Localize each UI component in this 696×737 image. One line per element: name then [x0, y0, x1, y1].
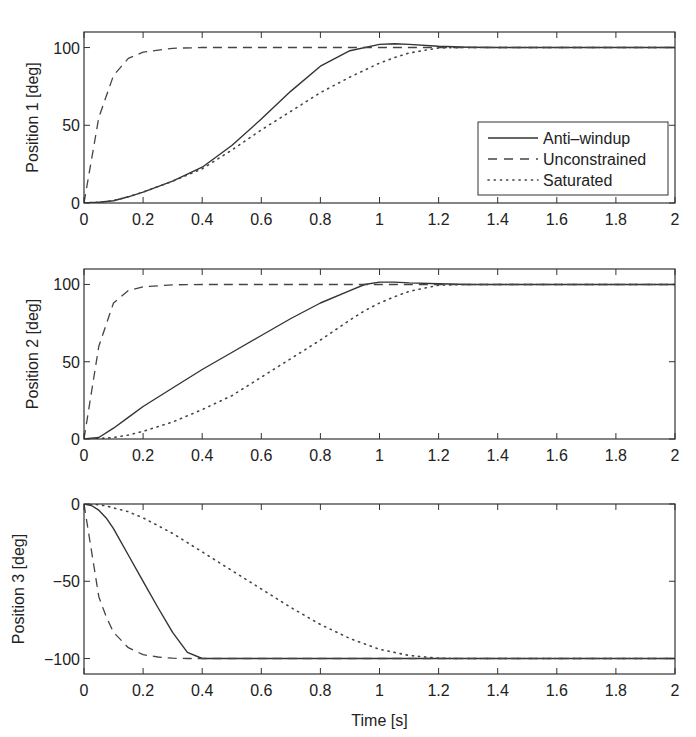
- x-tick-label: 1.8: [605, 211, 627, 228]
- x-axis-label: Time [s]: [351, 712, 407, 729]
- subplot-3: 00.20.40.60.811.21.41.61.82−100−500Posit…: [10, 496, 680, 729]
- x-tick-label: 1.2: [427, 682, 449, 699]
- x-tick-label: 0.4: [191, 447, 213, 464]
- y-tick-label: −50: [53, 573, 80, 590]
- figure: 00.20.40.60.811.21.41.61.82050100Positio…: [0, 0, 696, 737]
- series-line-solid: [84, 282, 675, 439]
- x-tick-label: 1: [375, 211, 384, 228]
- legend-label: Anti–windup: [543, 130, 630, 147]
- x-tick-label: 0.8: [309, 682, 331, 699]
- x-tick-label: 1.4: [487, 211, 509, 228]
- x-tick-label: 2: [671, 682, 680, 699]
- subplot-1: 00.20.40.60.811.21.41.61.82050100Positio…: [24, 32, 680, 228]
- x-tick-label: 1: [375, 682, 384, 699]
- series-line-dotted: [84, 285, 675, 440]
- subplot-2: 00.20.40.60.811.21.41.61.82050100Positio…: [24, 269, 680, 464]
- series-group: [84, 504, 675, 659]
- y-axis-label: Position 3 [deg]: [10, 534, 27, 644]
- x-tick-label: 0.2: [132, 682, 154, 699]
- x-tick-label: 0.4: [191, 682, 213, 699]
- x-tick-label: 0: [80, 211, 89, 228]
- axes-box: [84, 269, 675, 439]
- x-tick-label: 1.6: [546, 211, 568, 228]
- x-tick-label: 1.8: [605, 682, 627, 699]
- x-tick-label: 0.8: [309, 211, 331, 228]
- y-tick-label: 100: [53, 40, 80, 57]
- x-tick-label: 1: [375, 447, 384, 464]
- x-tick-label: 1.6: [546, 682, 568, 699]
- x-tick-label: 0.2: [132, 211, 154, 228]
- axes-box: [84, 504, 675, 674]
- y-tick-label: 0: [71, 195, 80, 212]
- x-tick-label: 2: [671, 447, 680, 464]
- x-tick-label: 0.6: [250, 447, 272, 464]
- series-line-dashed: [84, 504, 675, 659]
- x-tick-label: 0.8: [309, 447, 331, 464]
- y-tick-label: 0: [71, 496, 80, 513]
- x-tick-label: 2: [671, 211, 680, 228]
- x-tick-label: 0.6: [250, 211, 272, 228]
- series-group: [84, 282, 675, 439]
- x-tick-label: 1.8: [605, 447, 627, 464]
- series-line-dashed: [84, 285, 675, 440]
- x-tick-label: 1.2: [427, 211, 449, 228]
- x-tick-label: 0.2: [132, 447, 154, 464]
- y-tick-label: 100: [53, 276, 80, 293]
- y-axis-label: Position 1 [deg]: [24, 62, 41, 172]
- legend: Anti–windupUnconstrainedSaturated: [478, 122, 668, 195]
- y-tick-label: 50: [62, 354, 80, 371]
- x-tick-label: 1.2: [427, 447, 449, 464]
- legend-label: Saturated: [543, 172, 612, 189]
- y-axis-label: Position 2 [deg]: [24, 299, 41, 409]
- y-tick-label: −100: [44, 651, 80, 668]
- x-tick-label: 0.4: [191, 211, 213, 228]
- x-tick-label: 1.6: [546, 447, 568, 464]
- y-tick-label: 0: [71, 431, 80, 448]
- series-line-solid: [84, 504, 675, 659]
- x-tick-label: 0: [80, 682, 89, 699]
- x-tick-label: 1.4: [487, 447, 509, 464]
- x-tick-label: 0.6: [250, 682, 272, 699]
- x-tick-label: 0: [80, 447, 89, 464]
- y-tick-label: 50: [62, 117, 80, 134]
- series-line-dotted: [84, 504, 675, 659]
- legend-label: Unconstrained: [543, 151, 646, 168]
- x-tick-label: 1.4: [487, 682, 509, 699]
